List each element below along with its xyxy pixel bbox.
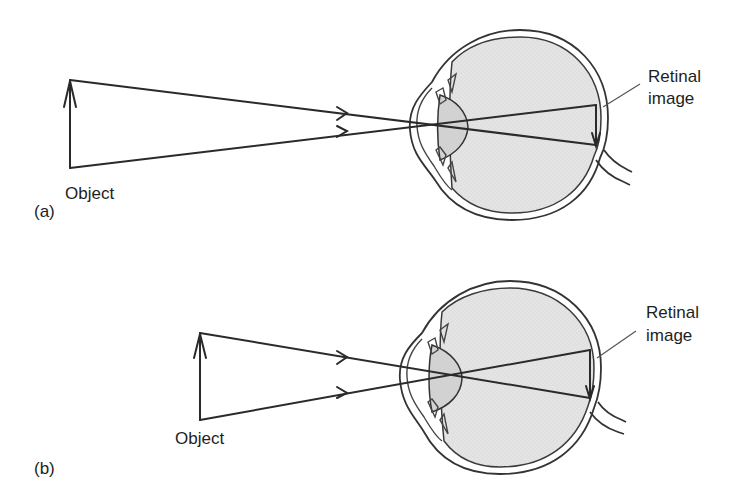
- optic-nerve-upper-b: [598, 402, 626, 422]
- panel-b: Retinal image Object (b): [34, 281, 699, 478]
- eye-optics-diagram: Retinal image Object (a): [0, 0, 751, 504]
- eyeball-a: [410, 30, 632, 220]
- retinal-label-line2-b: image: [646, 326, 692, 345]
- object-label-b: Object: [175, 429, 224, 448]
- retinal-label-line1-b: Retinal: [646, 303, 699, 322]
- object-arrow-a: [64, 80, 76, 168]
- retinal-label-line1-a: Retinal: [648, 67, 701, 86]
- object-label-a: Object: [65, 184, 114, 203]
- leader-line-a: [603, 84, 640, 107]
- optic-nerve-lower-a: [596, 160, 630, 185]
- optic-nerve-upper-a: [604, 150, 632, 172]
- panel-label-a: (a): [34, 202, 55, 221]
- panel-label-b: (b): [34, 459, 55, 478]
- ray-arrowhead-bottom-b: [337, 387, 347, 398]
- optic-nerve-lower-b: [590, 412, 624, 434]
- panel-a: Retinal image Object (a): [34, 30, 701, 221]
- object-arrow-b: [194, 333, 206, 420]
- retinal-label-line2-a: image: [648, 89, 694, 108]
- leader-line-b: [597, 331, 636, 358]
- vitreous-a: [450, 37, 601, 213]
